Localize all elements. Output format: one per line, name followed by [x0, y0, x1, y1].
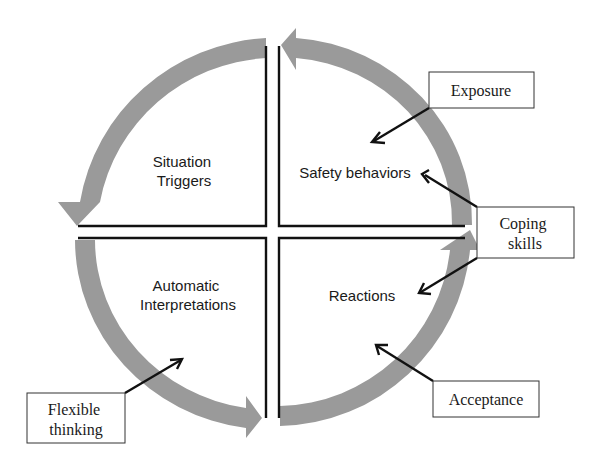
intervention-label-exposure: Exposure	[451, 82, 511, 100]
cycle-arc-top-left	[58, 38, 266, 226]
quadrant-label-reactions: Reactions	[329, 287, 396, 304]
intervention-box-exposure: Exposure	[429, 72, 534, 108]
cycle-diagram: Situation Triggers Safety behaviors Auto…	[0, 0, 601, 472]
quadrant-label-automatic-interpretations: Automatic Interpretations	[140, 277, 236, 313]
intervention-box-flexible-thinking: Flexible thinking	[27, 393, 125, 443]
intervention-label-acceptance: Acceptance	[449, 391, 524, 409]
quadrant-label-safety-behaviors: Safety behaviors	[299, 164, 411, 181]
intervention-box-coping-skills: Coping skills	[477, 207, 574, 258]
quadrant-label-situation-triggers: Situation Triggers	[153, 153, 216, 189]
cycle-arc-top-right	[281, 28, 472, 225]
intervention-box-acceptance: Acceptance	[433, 381, 539, 417]
